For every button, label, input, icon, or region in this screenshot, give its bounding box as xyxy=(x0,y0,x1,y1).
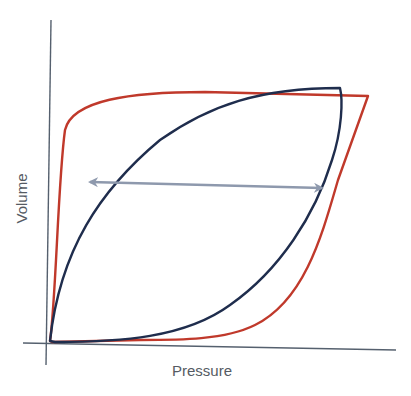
hysteresis-width-arrow xyxy=(90,182,322,188)
red-loop-curve xyxy=(50,92,368,342)
y-axis-label: Volume xyxy=(13,173,30,223)
x-axis xyxy=(23,343,396,350)
y-axis xyxy=(46,20,51,365)
x-axis-label: Pressure xyxy=(172,362,232,379)
blue-loop-curve xyxy=(50,88,341,342)
pressure-volume-diagram xyxy=(0,0,411,396)
